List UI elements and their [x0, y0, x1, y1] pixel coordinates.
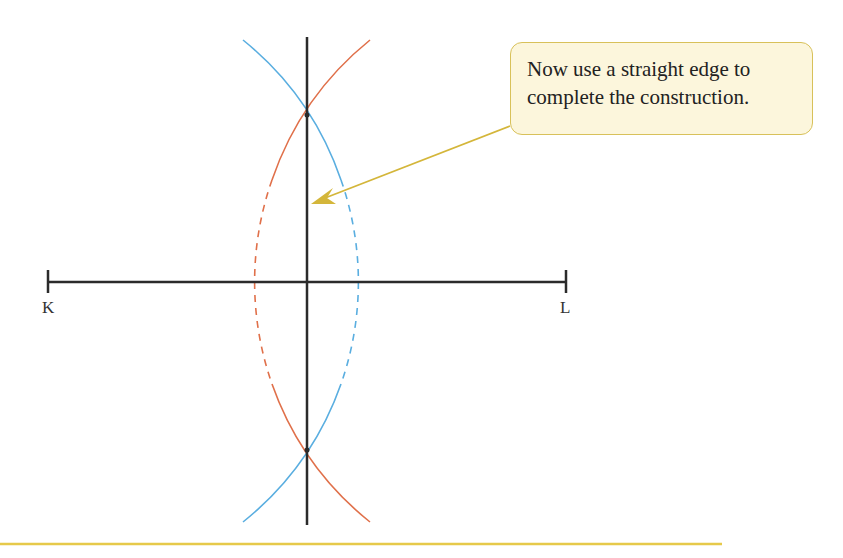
point-label-K: K	[42, 298, 54, 318]
point-label-L: L	[560, 298, 570, 318]
callout-line-1: Now use a straight edge to	[527, 55, 798, 83]
instruction-callout: Now use a straight edge to complete the …	[510, 42, 813, 135]
callout-line-2: complete the construction.	[527, 83, 798, 111]
intersection-top	[305, 113, 310, 118]
intersection-bottom	[305, 448, 310, 453]
callout-arrow	[311, 126, 510, 204]
